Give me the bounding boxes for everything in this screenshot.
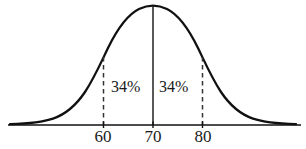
region-label-right: 34% [159,79,188,95]
region-label-left: 34% [111,79,140,95]
x-tick-label-60: 60 [86,128,120,145]
x-tick-label-70: 70 [136,128,170,145]
x-tick-label-80: 80 [186,128,220,145]
bell-curve-figure: 34% 34% 60 70 80 [0,0,306,149]
